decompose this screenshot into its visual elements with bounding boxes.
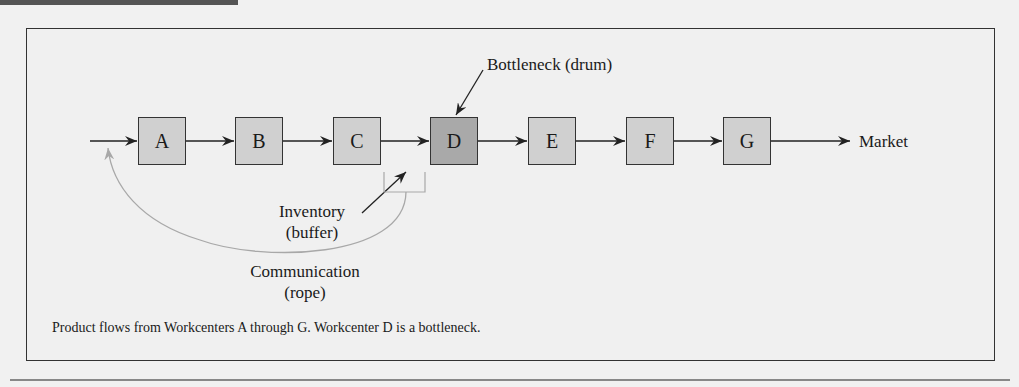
communication-label-line1: Communication [230,261,380,282]
inventory-label-line2: (buffer) [262,222,362,243]
communication-label: Communication (rope) [230,261,380,303]
workcenter-label: F [644,130,655,153]
workcenter-label: E [546,130,558,153]
communication-label-line2: (rope) [230,282,380,303]
figure-caption: Product flows from Workcenters A through… [52,320,480,336]
workcenter-c: C [333,117,381,165]
workcenter-e: E [528,117,576,165]
workcenter-label: A [155,130,169,153]
workcenter-label: D [447,130,461,153]
inventory-label: Inventory (buffer) [262,201,362,243]
workcenter-g: G [723,117,771,165]
workcenter-f: F [626,117,674,165]
inventory-label-line1: Inventory [262,201,362,222]
market-label: Market [859,131,908,152]
buffer-bracket [384,172,425,192]
workcenter-a: A [138,117,186,165]
workcenter-label: C [350,130,363,153]
workcenter-label: G [740,130,754,153]
workcenter-label: B [252,130,265,153]
workcenter-b: B [235,117,283,165]
workcenter-d-bottleneck: D [430,117,478,165]
bottleneck-label: Bottleneck (drum) [487,54,612,75]
